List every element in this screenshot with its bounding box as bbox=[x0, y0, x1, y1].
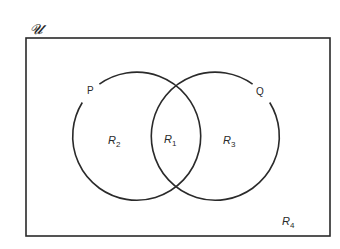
region-r3-label: R3 bbox=[223, 134, 236, 149]
region-r1-label: R1 bbox=[164, 133, 177, 148]
venn-diagram: 𝓤 P Q R2 R1 R3 R4 bbox=[0, 0, 340, 249]
region-r2-label: R2 bbox=[108, 134, 121, 149]
universe-label: 𝓤 bbox=[30, 21, 47, 37]
universe-rectangle bbox=[26, 38, 330, 236]
set-p-label: P bbox=[87, 85, 94, 96]
region-r4-label: R4 bbox=[282, 215, 295, 230]
set-q-label: Q bbox=[256, 86, 264, 97]
